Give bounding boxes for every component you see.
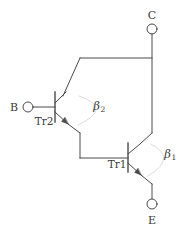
tr1-device-label: Tr1 bbox=[108, 159, 127, 170]
beta1-gain-label: β1 bbox=[164, 149, 175, 161]
circuit-diagram-canvas: C B E Tr2 Tr1 β2 β1 bbox=[0, 0, 186, 233]
beta1-annotation-arc bbox=[148, 144, 164, 176]
tr1-emitter-diagonal-wire bbox=[141, 175, 152, 184]
emitter-terminal-label: E bbox=[148, 215, 156, 226]
base-terminal-circle bbox=[23, 102, 33, 112]
collector-terminal-circle bbox=[147, 24, 157, 34]
emitter-terminal-circle bbox=[147, 199, 157, 209]
circuit-schematic-svg bbox=[0, 0, 186, 233]
beta1-symbol: β bbox=[164, 147, 171, 161]
tr1-collector-stub bbox=[128, 144, 140, 154]
beta2-subscript: 2 bbox=[100, 105, 105, 114]
base-terminal-label: B bbox=[10, 102, 18, 113]
beta1-subscript: 1 bbox=[171, 153, 176, 162]
tr1-collector-diagonal-wire bbox=[140, 133, 152, 144]
tr2-collector-diagonal-wire bbox=[63, 58, 80, 96]
beta2-symbol: β bbox=[93, 99, 100, 113]
tr2-device-label: Tr2 bbox=[35, 116, 54, 127]
collector-terminal-label: C bbox=[148, 10, 156, 21]
beta2-gain-label: β2 bbox=[93, 101, 104, 113]
tr2-collector-stub bbox=[55, 92, 66, 103]
